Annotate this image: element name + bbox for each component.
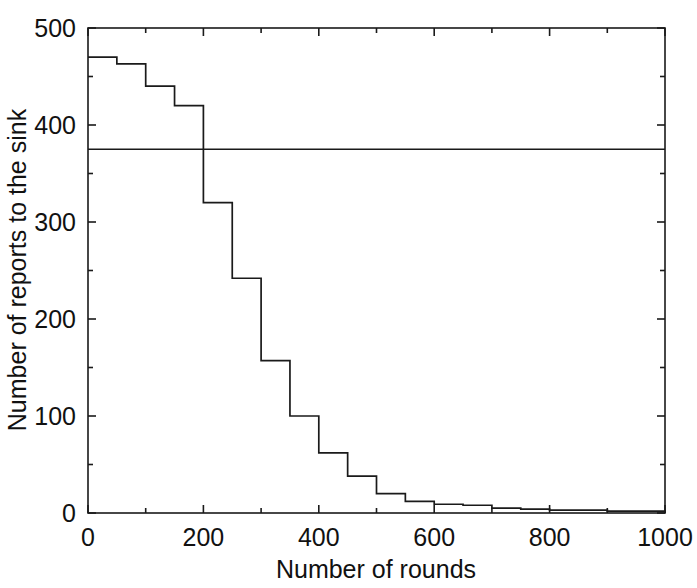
y-tick-label: 500 xyxy=(34,14,76,42)
x-tick-label: 800 xyxy=(529,523,571,551)
step-chart-svg: 02004006008001000 0100200300400500 Numbe… xyxy=(0,0,697,588)
x-tick-label: 0 xyxy=(81,523,95,551)
y-tick-label: 400 xyxy=(34,111,76,139)
chart-background xyxy=(0,0,697,588)
y-tick-label: 100 xyxy=(34,402,76,430)
chart-figure: 02004006008001000 0100200300400500 Numbe… xyxy=(0,0,697,588)
x-tick-label: 400 xyxy=(298,523,340,551)
x-tick-label: 600 xyxy=(413,523,455,551)
x-tick-label: 200 xyxy=(183,523,225,551)
x-tick-label: 1000 xyxy=(637,523,693,551)
y-axis-title: Number of reports to the sink xyxy=(3,108,31,431)
y-tick-label: 0 xyxy=(62,499,76,527)
y-tick-label: 300 xyxy=(34,208,76,236)
y-tick-label: 200 xyxy=(34,305,76,333)
x-axis-title: Number of rounds xyxy=(276,555,476,583)
